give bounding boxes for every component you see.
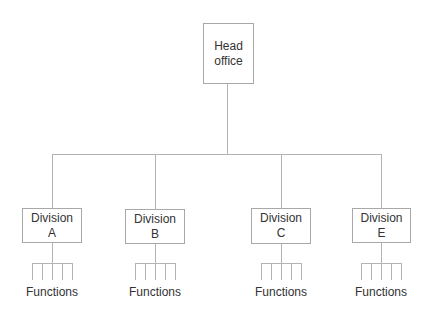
division-e-functions-label: Functions [341,285,421,299]
division-c-function-tick [291,263,292,280]
division-c-box: Division C [251,208,311,244]
division-b-label-line1: Division [134,212,176,227]
division-a-functions-stem [52,243,53,280]
division-c-function-tick [301,263,302,280]
division-e-box: Division E [352,208,411,243]
division-a-function-tick [42,263,43,280]
division-a-functions-fork-bar [32,263,73,264]
head-office-box: Head office [203,23,254,84]
division-c-label-line2: C [277,226,286,241]
division-b-function-tick [135,263,136,280]
division-b-functions-stem [155,244,156,280]
division-c-function-tick [271,263,272,280]
division-a-box: Division A [22,208,82,243]
division-b-functions-fork-bar [135,263,176,264]
division-c-label-line1: Division [260,211,302,226]
division-b-function-tick [145,263,146,280]
division-e-function-tick [371,263,372,280]
division-e-functions-fork-bar [361,263,402,264]
division-c-functions-stem [281,244,282,280]
division-e-label-line2: E [377,226,385,241]
head-office-label-line1: Head [214,39,243,54]
division-a-connector [52,154,53,208]
division-c-function-tick [261,263,262,280]
division-b-function-tick [175,263,176,280]
division-c-connector [281,154,282,208]
division-b-box: Division B [125,209,185,244]
division-e-function-tick [401,263,402,280]
division-e-functions-stem [381,243,382,280]
division-e-connector [381,154,382,208]
division-b-label-line2: B [151,227,159,242]
division-a-function-tick [32,263,33,280]
division-c-functions-fork-bar [261,263,302,264]
division-a-label-line2: A [48,226,56,241]
division-a-function-tick [72,263,73,280]
division-bar-connector [52,154,382,155]
division-b-functions-label: Functions [115,285,195,299]
head-office-label-line2: office [214,54,242,69]
division-b-function-tick [165,263,166,280]
trunk-connector [227,84,228,155]
division-a-label-line1: Division [31,211,73,226]
division-c-functions-label: Functions [241,285,321,299]
division-e-function-tick [391,263,392,280]
division-a-function-tick [62,263,63,280]
division-e-label-line1: Division [360,211,402,226]
division-b-connector [155,154,156,209]
division-a-functions-label: Functions [12,285,92,299]
division-e-function-tick [361,263,362,280]
